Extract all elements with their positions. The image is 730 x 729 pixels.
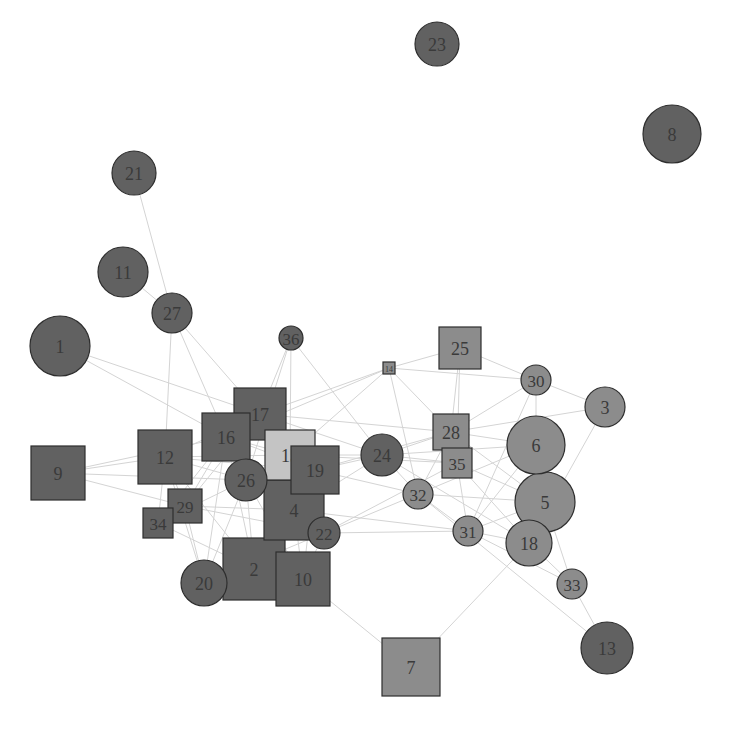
node-12[interactable]: 12 bbox=[138, 430, 192, 484]
node-label: 7 bbox=[407, 658, 416, 678]
node-label: 26 bbox=[237, 471, 255, 491]
node-1[interactable]: 1 bbox=[30, 316, 90, 376]
node-36[interactable]: 36 bbox=[279, 326, 303, 350]
node-label: 32 bbox=[410, 486, 427, 505]
node-24[interactable]: 24 bbox=[361, 434, 403, 476]
node-22[interactable]: 22 bbox=[308, 517, 340, 549]
node-label: 16 bbox=[217, 428, 235, 448]
node-10[interactable]: 10 bbox=[276, 552, 330, 606]
node-label: 3 bbox=[601, 398, 610, 418]
edge-14-30 bbox=[389, 368, 536, 380]
node-23[interactable]: 23 bbox=[415, 22, 459, 66]
node-27[interactable]: 27 bbox=[152, 293, 192, 333]
node-16[interactable]: 16 bbox=[202, 413, 250, 461]
node-18[interactable]: 18 bbox=[506, 520, 552, 566]
node-label: 4 bbox=[290, 501, 299, 521]
node-label: 30 bbox=[528, 372, 545, 391]
node-11[interactable]: 11 bbox=[98, 247, 148, 297]
node-31[interactable]: 31 bbox=[453, 516, 483, 546]
node-9[interactable]: 9 bbox=[31, 446, 85, 500]
node-label: 22 bbox=[316, 525, 333, 544]
node-label: 12 bbox=[156, 448, 174, 468]
node-label: 14 bbox=[385, 365, 393, 374]
node-label: 28 bbox=[442, 423, 460, 443]
network-graph: 2145678910121317111516191820212324252632… bbox=[0, 0, 730, 729]
node-label: 25 bbox=[451, 339, 469, 359]
node-label: 20 bbox=[195, 574, 213, 594]
node-label: 24 bbox=[373, 446, 391, 466]
node-30[interactable]: 30 bbox=[521, 365, 551, 395]
node-label: 36 bbox=[283, 330, 300, 349]
node-label: 11 bbox=[114, 263, 131, 283]
node-label: 17 bbox=[251, 405, 269, 425]
node-label: 13 bbox=[598, 639, 616, 659]
node-label: 34 bbox=[150, 515, 168, 534]
node-label: 2 bbox=[250, 560, 259, 580]
node-32[interactable]: 32 bbox=[403, 479, 433, 509]
node-label: 9 bbox=[54, 464, 63, 484]
node-13[interactable]: 13 bbox=[581, 622, 633, 674]
node-14[interactable]: 14 bbox=[383, 362, 395, 374]
node-label: 33 bbox=[564, 576, 581, 595]
node-label: 6 bbox=[532, 436, 541, 456]
node-label: 5 bbox=[541, 493, 550, 513]
node-label: 27 bbox=[163, 304, 181, 324]
node-label: 35 bbox=[449, 455, 466, 474]
edge-28-17 bbox=[260, 414, 451, 432]
node-26[interactable]: 26 bbox=[225, 459, 267, 501]
node-label: 19 bbox=[306, 461, 324, 481]
node-35[interactable]: 35 bbox=[442, 448, 472, 478]
node-20[interactable]: 20 bbox=[181, 560, 227, 606]
node-label: 31 bbox=[460, 523, 477, 542]
node-label: 10 bbox=[294, 570, 312, 590]
node-21[interactable]: 21 bbox=[112, 151, 156, 195]
node-label: 1 bbox=[56, 337, 65, 357]
graph-nodes: 2145678910121317111516191820212324252632… bbox=[30, 22, 701, 696]
node-8[interactable]: 8 bbox=[643, 105, 701, 163]
node-28[interactable]: 28 bbox=[433, 414, 469, 450]
node-25[interactable]: 25 bbox=[439, 327, 481, 369]
node-34[interactable]: 34 bbox=[143, 508, 173, 538]
node-33[interactable]: 33 bbox=[557, 569, 587, 599]
edge-31-22 bbox=[324, 531, 468, 533]
node-label: 23 bbox=[428, 35, 446, 55]
node-7[interactable]: 7 bbox=[382, 638, 440, 696]
node-19[interactable]: 19 bbox=[291, 446, 339, 494]
node-label: 8 bbox=[668, 125, 677, 145]
edge-14-32 bbox=[389, 368, 418, 494]
node-label: 18 bbox=[520, 534, 538, 554]
node-6[interactable]: 6 bbox=[507, 416, 565, 474]
node-label: 21 bbox=[125, 164, 143, 184]
node-3[interactable]: 3 bbox=[585, 387, 625, 427]
node-label: 29 bbox=[177, 498, 194, 517]
